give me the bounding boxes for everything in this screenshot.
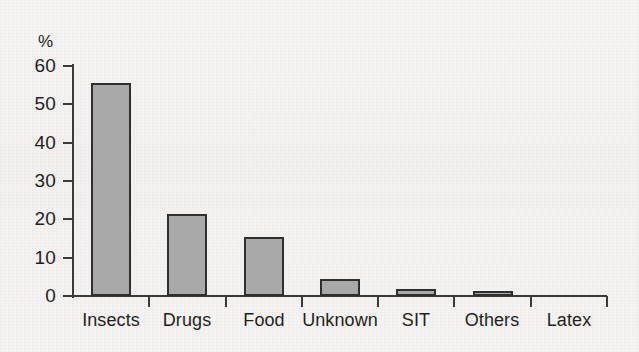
y-axis-unit-label: %	[38, 33, 53, 50]
x-axis-label-food: Food	[226, 310, 302, 330]
y-axis-tick-label: 10	[10, 248, 56, 267]
y-axis-tick-label: 30	[10, 171, 56, 190]
y-axis-tick	[63, 103, 73, 105]
x-axis-tick	[377, 296, 379, 307]
bar-food	[244, 237, 284, 296]
x-axis-label-insects: Insects	[73, 310, 149, 330]
x-axis-tick	[148, 296, 150, 307]
y-axis-tick	[63, 295, 73, 297]
x-axis-tick	[530, 296, 532, 307]
bar-others	[473, 291, 513, 296]
x-axis-label-others: Others	[454, 310, 530, 330]
x-axis-tick	[301, 296, 303, 307]
x-axis-tick	[225, 296, 227, 307]
x-axis-tick	[453, 296, 455, 307]
y-axis-tick	[63, 257, 73, 259]
y-axis-tick	[63, 142, 73, 144]
chart-page: % 6050403020100 InsectsDrugsFoodUnknownS…	[0, 0, 639, 352]
y-axis-tick	[63, 218, 73, 220]
y-axis-tick-label: 0	[10, 286, 56, 305]
y-axis-tick-label: 50	[10, 94, 56, 113]
x-axis-label-drugs: Drugs	[149, 310, 225, 330]
y-axis-tick	[63, 180, 73, 182]
y-axis-tick	[63, 65, 73, 67]
bar-insects	[91, 83, 131, 296]
y-axis-tick-label: 40	[10, 133, 56, 152]
x-axis-label-unknown: Unknown	[302, 310, 378, 330]
bar-drugs	[167, 214, 207, 296]
y-axis-tick-label: 20	[10, 209, 56, 228]
x-axis-tick	[606, 296, 608, 307]
bar-sit	[396, 289, 436, 296]
bar-chart: % 6050403020100 InsectsDrugsFoodUnknownS…	[0, 0, 639, 352]
y-axis-tick-label: 60	[10, 56, 56, 75]
x-axis-label-sit: SIT	[378, 310, 454, 330]
x-axis-label-latex: Latex	[531, 310, 607, 330]
bar-unknown	[320, 279, 360, 296]
